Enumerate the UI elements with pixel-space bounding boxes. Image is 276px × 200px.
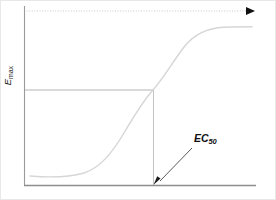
ec50-annotation-label: EC50: [194, 132, 216, 146]
dose-response-figure: Emax EC50: [0, 0, 276, 200]
ec50-label-main: EC: [194, 132, 209, 144]
figure-border: [1, 1, 276, 200]
y-axis-label: Emax: [2, 56, 14, 96]
y-axis-label-main: E: [2, 79, 13, 85]
y-axis-label-subscript: max: [7, 66, 14, 79]
ec50-label-subscript: 50: [209, 137, 217, 146]
chart-canvas: [0, 0, 276, 200]
